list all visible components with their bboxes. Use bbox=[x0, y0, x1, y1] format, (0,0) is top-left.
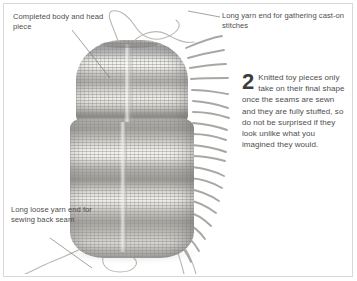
toy-body-section bbox=[70, 118, 194, 258]
step-body-text: Knitted toy pieces only take on their fi… bbox=[242, 72, 350, 150]
knitted-toy-photograph bbox=[8, 8, 240, 274]
page-root: Completed body and head piece Long yarn … bbox=[0, 0, 357, 281]
toy-drop-shadow bbox=[66, 246, 198, 262]
step-number: 2 bbox=[242, 72, 254, 92]
caption-long-yarn-end-gathering: Long yarn end for gathering cast-on stit… bbox=[222, 11, 346, 30]
toy-gathered-top bbox=[100, 41, 158, 48]
knitted-toy-piece bbox=[70, 40, 194, 258]
caption-completed-body-and-head-piece: Completed body and head piece bbox=[13, 12, 109, 31]
toy-body-seam bbox=[120, 122, 128, 252]
instruction-step-block: 2 Knitted toy pieces only take on their … bbox=[242, 72, 350, 150]
caption-long-loose-yarn-end-back-seam: Long loose yarn end for sewing back seam bbox=[11, 205, 107, 224]
toy-head-seam bbox=[124, 44, 133, 122]
